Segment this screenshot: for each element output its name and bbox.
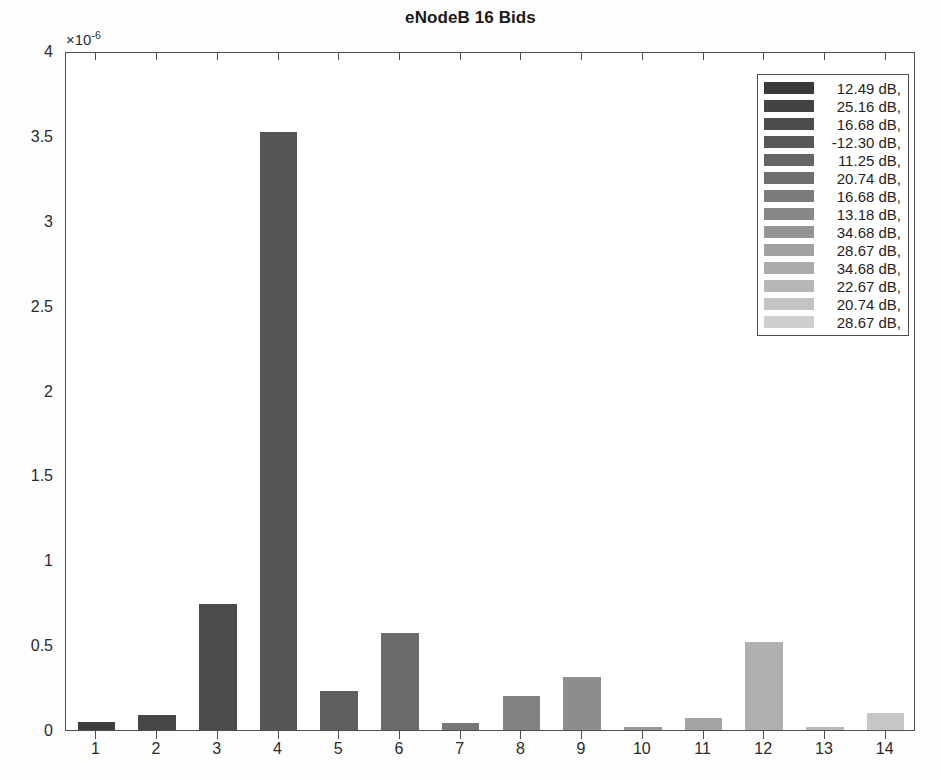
legend-swatch	[764, 316, 814, 328]
legend-swatch	[764, 280, 814, 292]
legend-item[interactable]: 28.67 dB,	[762, 313, 904, 331]
x-axis-tick-mark	[338, 731, 339, 739]
x-axis-tick-label: 14	[855, 740, 915, 758]
legend-item[interactable]: 28.67 dB,	[762, 241, 904, 259]
x-axis-tick-label: 3	[187, 740, 247, 758]
x-axis-tick-label: 1	[65, 740, 125, 758]
legend-item[interactable]: 20.74 dB,	[762, 169, 904, 187]
x-axis-tick-mark-top	[885, 52, 886, 60]
x-axis-tick-mark	[520, 731, 521, 739]
x-axis-tick-label: 2	[126, 740, 186, 758]
legend-item[interactable]: 25.16 dB,	[762, 97, 904, 115]
x-axis-tick-mark-top	[824, 52, 825, 60]
y-axis-tick-label: 3.5	[0, 128, 53, 146]
x-axis-tick-mark	[763, 731, 764, 739]
legend-swatch	[764, 208, 814, 220]
legend-label: 25.16 dB,	[814, 98, 904, 115]
legend-label: 28.67 dB,	[814, 314, 904, 331]
y-axis-exponent-power: -6	[91, 29, 100, 41]
legend-swatch	[764, 154, 814, 166]
bar	[260, 132, 298, 730]
legend-label: 34.68 dB,	[814, 224, 904, 241]
x-axis-tick-label: 12	[733, 740, 793, 758]
x-axis-tick-mark-top	[338, 52, 339, 60]
legend-swatch	[764, 226, 814, 238]
bar	[503, 696, 541, 730]
figure-canvas: eNodeB 16 Bids ×10-6 00.511.522.533.54 1…	[0, 0, 941, 781]
x-axis-tick-mark	[278, 731, 279, 739]
legend-box[interactable]: 12.49 dB,25.16 dB,16.68 dB,-12.30 dB,11.…	[757, 74, 909, 336]
x-axis-tick-mark	[885, 731, 886, 739]
legend-item[interactable]: 34.68 dB,	[762, 259, 904, 277]
x-axis-tick-label: 9	[551, 740, 611, 758]
x-axis-tick-mark-top	[217, 52, 218, 60]
legend-item[interactable]: 12.49 dB,	[762, 79, 904, 97]
x-axis-tick-label: 6	[369, 740, 429, 758]
x-axis-tick-mark-top	[156, 52, 157, 60]
legend-swatch	[764, 244, 814, 256]
x-axis-tick-mark	[642, 731, 643, 739]
y-axis-tick-label: 2.5	[0, 298, 53, 316]
bar	[685, 718, 723, 730]
x-axis-tick-mark	[703, 731, 704, 739]
legend-item[interactable]: 16.68 dB,	[762, 187, 904, 205]
x-axis-tick-mark-top	[763, 52, 764, 60]
x-axis-tick-label: 11	[673, 740, 733, 758]
legend-label: 11.25 dB,	[814, 152, 904, 169]
legend-item[interactable]: 34.68 dB,	[762, 223, 904, 241]
bar	[806, 727, 844, 730]
legend-swatch	[764, 190, 814, 202]
legend-label: 20.74 dB,	[814, 170, 904, 187]
legend-item[interactable]: 20.74 dB,	[762, 295, 904, 313]
x-axis-tick-mark	[581, 731, 582, 739]
legend-swatch	[764, 172, 814, 184]
legend-label: 16.68 dB,	[814, 188, 904, 205]
y-axis-exponent: ×10-6	[66, 29, 101, 48]
legend-item[interactable]: 22.67 dB,	[762, 277, 904, 295]
legend-item[interactable]: 11.25 dB,	[762, 151, 904, 169]
x-axis-tick-label: 10	[612, 740, 672, 758]
legend-item[interactable]: 13.18 dB,	[762, 205, 904, 223]
x-axis-tick-mark	[156, 731, 157, 739]
legend-label: -12.30 dB,	[814, 134, 904, 151]
legend-label: 22.67 dB,	[814, 278, 904, 295]
bar	[138, 715, 176, 730]
x-axis-tick-mark-top	[460, 52, 461, 60]
y-axis-tick-label: 1	[0, 552, 53, 570]
x-axis-tick-mark	[460, 731, 461, 739]
x-axis-tick-mark-top	[642, 52, 643, 60]
x-axis-tick-label: 8	[490, 740, 550, 758]
legend-label: 13.18 dB,	[814, 206, 904, 223]
legend-item[interactable]: -12.30 dB,	[762, 133, 904, 151]
bar	[867, 713, 905, 730]
bar	[745, 642, 783, 730]
legend-swatch	[764, 82, 814, 94]
legend-label: 16.68 dB,	[814, 116, 904, 133]
bar	[442, 723, 480, 730]
bar	[320, 691, 358, 730]
x-axis-tick-label: 13	[794, 740, 854, 758]
bar	[624, 727, 662, 730]
legend-item[interactable]: 16.68 dB,	[762, 115, 904, 133]
legend-label: 28.67 dB,	[814, 242, 904, 259]
bar	[199, 604, 237, 730]
x-axis-tick-mark	[95, 731, 96, 739]
y-axis-tick-label: 2	[0, 383, 53, 401]
legend-swatch	[764, 262, 814, 274]
bar	[563, 677, 601, 730]
y-axis-tick-label: 4	[0, 43, 53, 61]
y-axis-exponent-base: ×10	[66, 31, 91, 48]
x-axis-tick-mark-top	[581, 52, 582, 60]
y-axis-tick-label: 3	[0, 213, 53, 231]
legend-label: 12.49 dB,	[814, 80, 904, 97]
x-axis-tick-mark-top	[278, 52, 279, 60]
legend-swatch	[764, 136, 814, 148]
x-axis-tick-label: 4	[248, 740, 308, 758]
bar	[381, 633, 419, 730]
x-axis-tick-mark	[824, 731, 825, 739]
x-axis-tick-mark	[399, 731, 400, 739]
x-axis-tick-mark-top	[703, 52, 704, 60]
x-axis-tick-label: 7	[430, 740, 490, 758]
x-axis-tick-mark-top	[520, 52, 521, 60]
legend-swatch	[764, 298, 814, 310]
